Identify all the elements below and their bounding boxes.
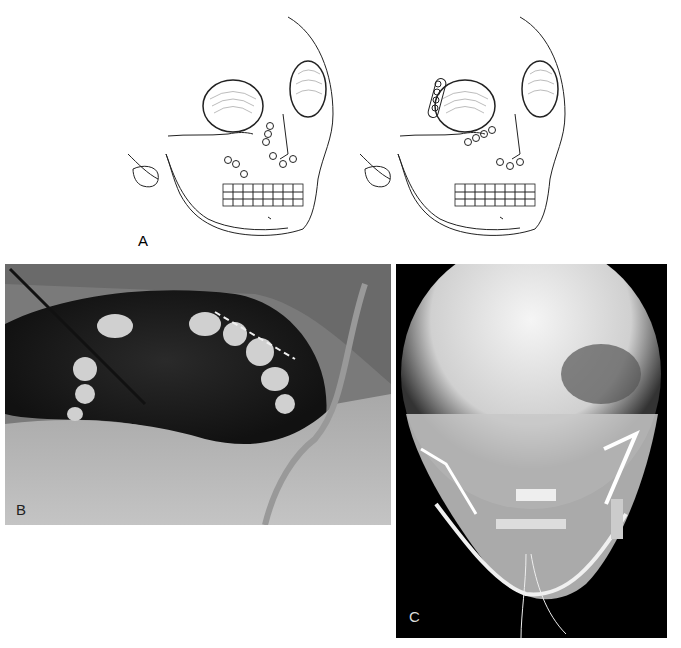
skull-xray	[396, 264, 667, 638]
panel-c-radiograph: C	[396, 264, 667, 638]
panel-b-label: B	[16, 502, 26, 517]
panel-a-label: A	[138, 233, 148, 248]
panel-a-skull-illustration-left	[128, 14, 348, 240]
panel-b-intraoperative-photo: B	[5, 264, 391, 525]
intraoperative-photo	[5, 264, 391, 525]
skull-drawing-right	[360, 14, 570, 240]
panel-c-label: C	[409, 609, 420, 624]
panel-a-skull-illustration-right	[360, 14, 570, 240]
skull-drawing-left	[128, 14, 348, 240]
